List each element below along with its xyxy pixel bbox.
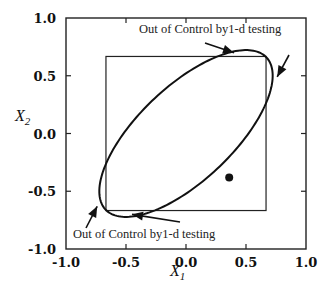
control-ellipse-path — [99, 50, 272, 217]
data-point — [225, 173, 233, 181]
x-tick-label: 1.0 — [295, 255, 318, 270]
y-tick-label: 1.0 — [33, 11, 56, 26]
y-axis-label: X2 — [14, 107, 31, 127]
annotation-top: Out of Control by1-d testing — [139, 22, 282, 36]
annotation-bottom: Out of Control by1-d testing — [73, 227, 216, 241]
plot-frame — [66, 18, 306, 249]
x-tick-label: 0.5 — [235, 255, 258, 270]
ellipse-control-chart: -1.0-0.50.00.51.01.00.50.0-0.5-1.0 Out o… — [0, 0, 328, 297]
x-tick-label: -1.0 — [52, 255, 80, 270]
y-tick-label: -1.0 — [28, 242, 56, 257]
control-square-rect — [106, 56, 266, 210]
y-tick-label: -0.5 — [28, 184, 56, 199]
y-tick-label: 0.5 — [33, 69, 56, 84]
annotation-arrows — [86, 43, 289, 228]
arrow-head — [222, 45, 234, 54]
y-tick-label: 0.0 — [33, 127, 56, 142]
chart: -1.0-0.50.00.51.01.00.50.0-0.5-1.0 Out o… — [0, 0, 328, 297]
axes-box — [66, 18, 306, 249]
x-tick-label: -0.5 — [112, 255, 140, 270]
control-square — [106, 56, 266, 210]
control-ellipse — [99, 50, 272, 217]
data-points — [225, 173, 233, 181]
